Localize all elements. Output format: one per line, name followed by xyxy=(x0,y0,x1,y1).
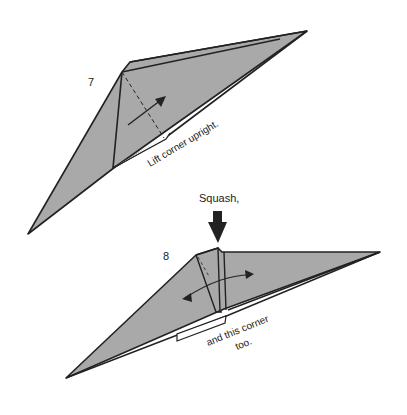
step-8-figure xyxy=(66,248,380,378)
step-number-8: 8 xyxy=(163,250,169,262)
step-7-figure xyxy=(28,31,307,234)
step-8-instruction-bottom-2: too. xyxy=(234,335,254,351)
step-number-7: 7 xyxy=(88,76,94,88)
origami-diagram: 7 Lift corner upright. Squash, 8 and thi… xyxy=(0,0,407,415)
squash-arrow xyxy=(208,211,227,243)
step-8-instruction-top: Squash, xyxy=(199,192,239,204)
